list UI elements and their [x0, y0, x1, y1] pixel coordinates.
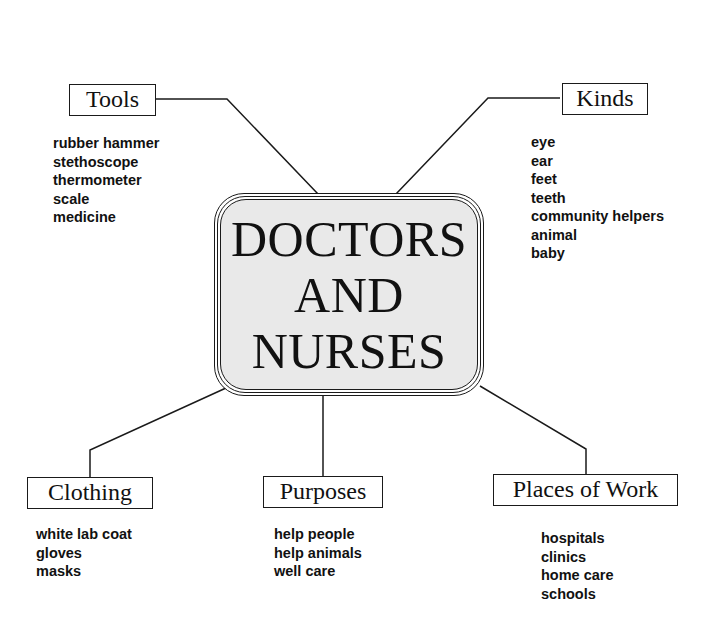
central-topic-line-3: NURSES [252, 323, 447, 379]
connector-places-of-work [480, 386, 586, 474]
list-item: schools [541, 585, 614, 604]
branch-label-tools: Tools [69, 84, 156, 116]
list-item: teeth [531, 189, 664, 208]
list-item: medicine [53, 208, 159, 227]
central-topic-line-2: AND [294, 267, 404, 323]
branch-label-purposes: Purposes [263, 476, 383, 508]
list-item: eye [531, 133, 664, 152]
list-item: community helpers [531, 207, 664, 226]
connector-clothing [90, 388, 226, 477]
kinds-list: eye ear feet teeth community helpers ani… [531, 133, 664, 263]
branch-label-kinds: Kinds [562, 83, 648, 115]
purposes-list: help people help animals well care [274, 525, 362, 581]
list-item: thermometer [53, 171, 159, 190]
list-item: clinics [541, 548, 614, 567]
list-item: help people [274, 525, 362, 544]
branch-label-places-of-work: Places of Work [493, 474, 678, 506]
list-item: stethoscope [53, 153, 159, 172]
places-of-work-list: hospitals clinics home care schools [541, 529, 614, 603]
list-item: feet [531, 170, 664, 189]
tools-list: rubber hammer stethoscope thermometer sc… [53, 134, 159, 227]
central-topic-line-1: DOCTORS [231, 211, 467, 267]
list-item: home care [541, 566, 614, 585]
central-topic-box: DOCTORS AND NURSES [214, 193, 484, 396]
connector-tools [156, 99, 318, 194]
list-item: baby [531, 244, 664, 263]
list-item: help animals [274, 544, 362, 563]
list-item: animal [531, 226, 664, 245]
list-item: white lab coat [36, 525, 132, 544]
list-item: ear [531, 152, 664, 171]
list-item: rubber hammer [53, 134, 159, 153]
list-item: gloves [36, 544, 132, 563]
list-item: well care [274, 562, 362, 581]
list-item: masks [36, 562, 132, 581]
clothing-list: white lab coat gloves masks [36, 525, 132, 581]
branch-label-clothing: Clothing [27, 477, 153, 509]
list-item: scale [53, 190, 159, 209]
list-item: hospitals [541, 529, 614, 548]
